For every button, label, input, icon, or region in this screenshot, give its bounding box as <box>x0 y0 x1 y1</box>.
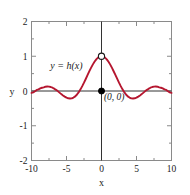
sinc-function-plot: -10-50510 -2-1012 x y y = h(x) (0, 0) <box>0 0 190 195</box>
x-axis-title: x <box>99 177 104 188</box>
x-tick-label: 5 <box>134 164 139 174</box>
x-tick-label: 0 <box>99 164 104 174</box>
y-tick-label: 0 <box>23 87 28 97</box>
curve-label-annotation: y = h(x) <box>49 60 83 72</box>
x-tick-label: 10 <box>167 164 177 174</box>
x-axis-tick-labels: -10-50510 <box>25 164 176 174</box>
chart-figure: -10-50510 -2-1012 x y y = h(x) (0, 0) <box>0 0 190 195</box>
y-tick-label: 1 <box>23 52 28 62</box>
y-axis-title: y <box>10 86 15 97</box>
y-tick-label: -2 <box>20 156 28 166</box>
x-tick-label: -5 <box>63 164 71 174</box>
open-circle-limit-marker <box>98 53 104 59</box>
y-tick-label: -1 <box>20 121 28 131</box>
origin-point-annotation: (0, 0) <box>104 92 125 103</box>
y-tick-label: 2 <box>23 17 28 27</box>
y-axis-tick-labels: -2-1012 <box>20 17 28 166</box>
